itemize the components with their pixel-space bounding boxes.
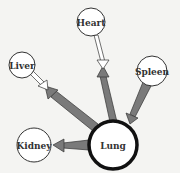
node-label-liver: Liver (9, 61, 35, 71)
node-liver[interactable]: Liver (9, 52, 35, 78)
edge-heart-to-lung (94, 35, 109, 69)
organ-network-diagram: Heart Liver Spleen Kidney Lung (0, 0, 180, 173)
edge-spleen-to-lung (126, 82, 151, 124)
edge-lung-to-heart (97, 66, 117, 122)
edge-lung-to-kidney (53, 139, 89, 152)
node-spleen[interactable]: Spleen (135, 56, 170, 86)
node-kidney[interactable]: Kidney (16, 128, 52, 162)
node-heart[interactable]: Heart (77, 8, 107, 36)
node-label-heart: Heart (77, 18, 107, 28)
node-label-lung: Lung (100, 141, 126, 151)
edge-lung-to-liver (45, 86, 98, 131)
node-lung[interactable]: Lung (89, 121, 137, 169)
node-label-kidney: Kidney (16, 141, 52, 151)
node-label-spleen: Spleen (135, 67, 170, 77)
edge-liver-to-lung (30, 71, 48, 90)
